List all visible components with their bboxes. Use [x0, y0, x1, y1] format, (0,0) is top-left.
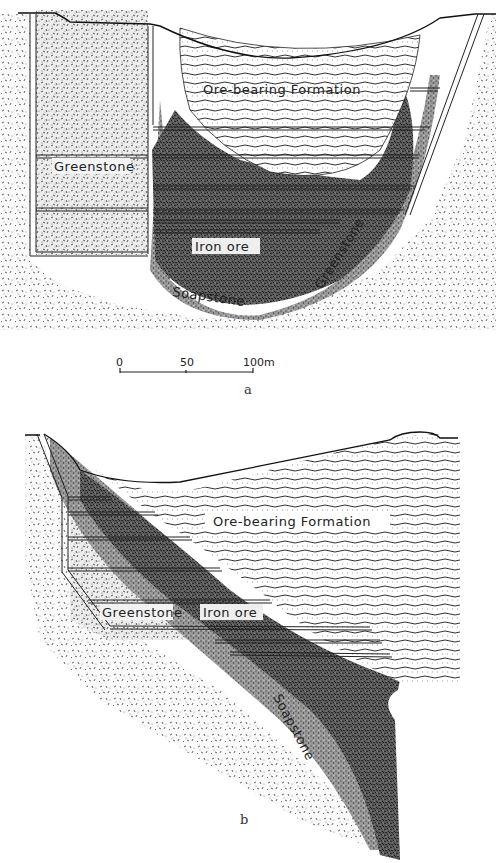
- scale-tick-0: 0: [116, 356, 123, 369]
- label-greenstone-b: Greenstone: [102, 605, 182, 620]
- panel-a: Ore-bearing Formation Greenstone Iron or…: [0, 10, 496, 397]
- label-greenstone-left-a: Greenstone: [54, 159, 134, 174]
- scale-tick-50: 50: [180, 356, 194, 369]
- panel-b: Ore-bearing Formation Greenstone Iron or…: [25, 432, 460, 860]
- label-iron-ore-a: Iron ore: [195, 239, 249, 254]
- caption-a: a: [244, 382, 252, 397]
- figure-canvas: Ore-bearing Formation Greenstone Iron or…: [0, 0, 496, 863]
- scale-tick-100m: 100m: [243, 356, 275, 369]
- greenstone-block-a: [36, 10, 148, 255]
- label-ore-bearing-formation-a: Ore-bearing Formation: [203, 82, 361, 97]
- label-iron-ore-b: Iron ore: [203, 605, 257, 620]
- caption-b: b: [240, 812, 248, 827]
- scale-bar: 0 50 100m: [116, 356, 275, 373]
- label-ore-bearing-formation-b: Ore-bearing Formation: [213, 514, 371, 529]
